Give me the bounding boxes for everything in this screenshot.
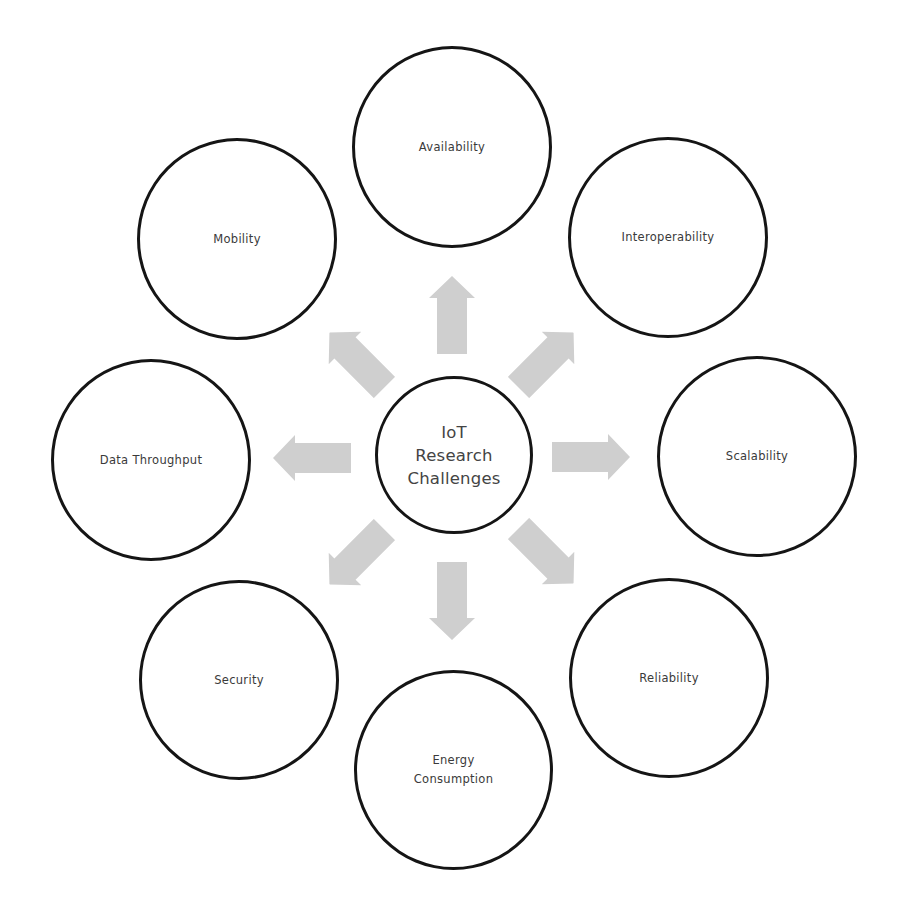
node-data-throughput: Data Throughput [51,359,251,561]
arrow-up-left-icon [313,316,401,404]
node-label: Scalability [726,447,788,466]
node-label: Reliability [639,669,699,688]
arrow-left-icon [273,435,351,481]
arrow-up-icon [429,276,475,354]
arrow-down-left-icon [313,513,401,601]
node-security: Security [139,580,339,780]
node-label: Mobility [213,230,261,249]
center-label: IoT Research Challenges [407,421,500,490]
arrow-up-right-icon [502,316,590,404]
iot-challenges-diagram: IoT Research Challenges Availability Int… [0,0,900,907]
arrow-down-icon [429,562,475,640]
node-label: Energy Consumption [414,751,493,789]
node-label: Interoperability [622,228,715,247]
arrow-right-icon [552,434,630,480]
node-label: Data Throughput [100,451,202,470]
center-node: IoT Research Challenges [375,376,533,534]
node-mobility: Mobility [137,138,337,340]
node-label: Security [214,671,264,690]
node-scalability: Scalability [657,356,857,557]
arrow-down-right-icon [502,512,590,600]
node-energy-consumption: Energy Consumption [354,670,553,870]
node-reliability: Reliability [569,578,769,778]
node-interoperability: Interoperability [568,137,768,338]
node-label: Availability [419,138,485,157]
node-availability: Availability [352,46,552,248]
